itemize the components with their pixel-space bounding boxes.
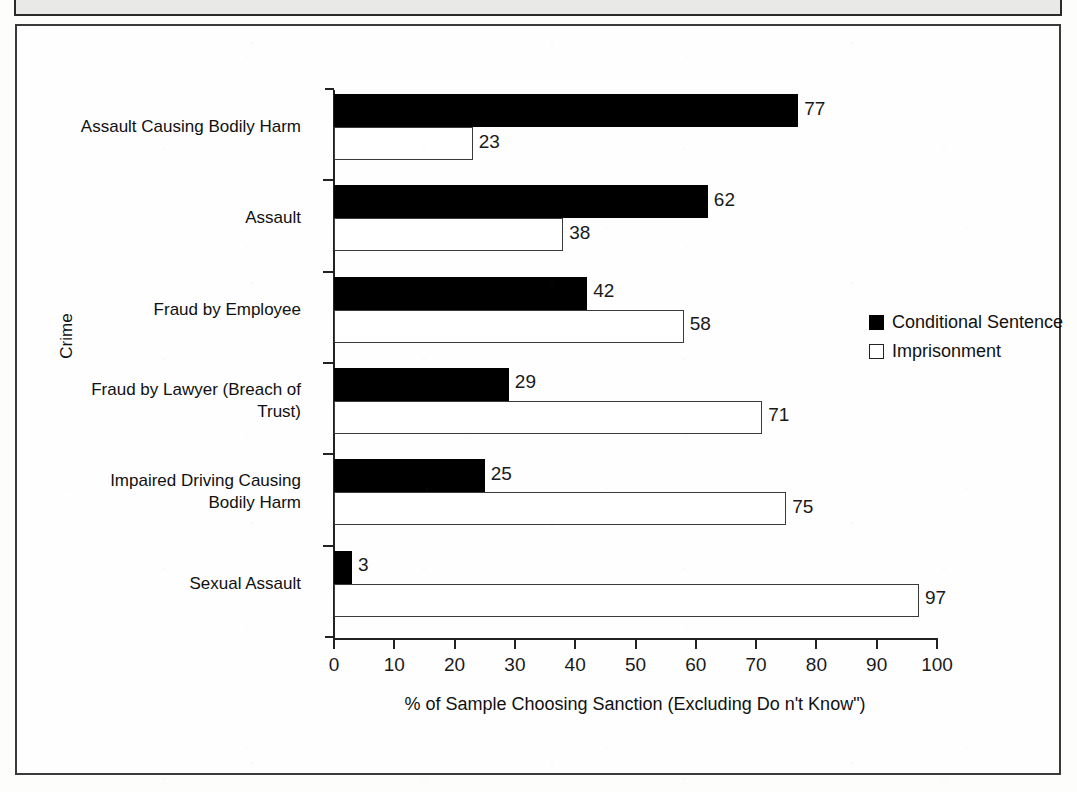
category-label-line: Impaired Driving Causing [31,470,301,492]
bar-conditional-sentence [334,459,485,492]
category-label: Fraud by Lawyer (Breach ofTrust) [31,379,301,423]
x-axis-tick [695,638,697,649]
x-axis-tick-label: 60 [685,654,706,676]
legend-label: Conditional Sentence [892,312,1063,333]
x-axis-tick-label: 90 [866,654,887,676]
x-axis-tick [454,638,456,649]
x-axis-title: % of Sample Choosing Sanction (Excluding… [333,694,937,715]
bar-value-label: 42 [593,280,614,302]
x-axis-tick-label: 40 [565,654,586,676]
category-label-line: Assault Causing Bodily Harm [31,116,301,138]
category-label-line: Trust) [31,401,301,423]
x-axis-tick [755,638,757,649]
legend-item-conditional-sentence: Conditional Sentence [869,308,1063,337]
category-label: Impaired Driving CausingBodily Harm [31,470,301,514]
x-axis-tick-label: 50 [625,654,646,676]
bar-value-label: 75 [792,496,813,518]
x-axis-tick-label: 100 [921,654,953,676]
y-axis-tick [323,179,334,181]
bar-value-label: 62 [714,189,735,211]
x-axis-tick [876,638,878,649]
bar-conditional-sentence [334,368,509,401]
y-axis-tick [325,88,334,90]
legend-label: Imprisonment [892,341,1001,362]
category-label: Assault [31,207,301,229]
bar-value-label: 29 [515,371,536,393]
x-axis-tick [574,638,576,649]
bar-value-label: 23 [479,131,500,153]
category-label: Sexual Assault [31,573,301,595]
x-axis-tick-label: 10 [384,654,405,676]
bar-value-label: 3 [358,554,369,576]
x-axis-tick [514,638,516,649]
bar-conditional-sentence [334,185,708,218]
plot-area: Crime % of Sample Choosing Sanction (Exc… [17,26,1063,777]
bar-value-label: 77 [804,98,825,120]
x-axis-tick-label: 30 [504,654,525,676]
figure-caption-bar: Figure 4: Public Support for Conditional… [14,0,1062,16]
category-label-line: Sexual Assault [31,573,301,595]
bar-imprisonment [334,492,786,525]
x-axis-tick-label: 80 [806,654,827,676]
bar-imprisonment [334,310,684,343]
legend-item-imprisonment: Imprisonment [869,337,1063,366]
bar-conditional-sentence [334,277,587,310]
bar-conditional-sentence [334,94,798,127]
bar-value-label: 71 [768,404,789,426]
category-label-line: Bodily Harm [31,492,301,514]
category-label: Fraud by Employee [31,299,301,321]
x-axis-tick-label: 70 [746,654,767,676]
bar-value-label: 25 [491,463,512,485]
x-axis-tick-label: 20 [444,654,465,676]
category-label-line: Assault [31,207,301,229]
y-axis-tick [325,636,334,638]
chart-frame: Crime % of Sample Choosing Sanction (Exc… [15,24,1061,775]
bar-value-label: 97 [925,587,946,609]
bar-conditional-sentence [334,551,352,584]
bar-imprisonment [334,218,563,251]
category-label: Assault Causing Bodily Harm [31,116,301,138]
legend-swatch-filled-square-icon [869,315,884,330]
bar-imprisonment [334,401,762,434]
y-axis-tick [323,453,334,455]
x-axis-tick [333,638,335,649]
category-label-line: Fraud by Lawyer (Breach of [31,379,301,401]
bar-value-label: 58 [690,313,711,335]
x-axis-tick [393,638,395,649]
legend-swatch-outlined-square-icon [869,344,884,359]
y-axis-tick [323,545,334,547]
y-axis-tick [323,362,334,364]
legend: Conditional Sentence Imprisonment [869,308,1063,366]
x-axis-tick [635,638,637,649]
x-axis-tick-label: 0 [329,654,340,676]
bar-imprisonment [334,127,473,160]
bar-value-label: 38 [569,222,590,244]
y-axis-tick [323,271,334,273]
x-axis-tick [815,638,817,649]
bar-imprisonment [334,584,919,617]
x-axis-tick [936,638,938,649]
category-label-line: Fraud by Employee [31,299,301,321]
